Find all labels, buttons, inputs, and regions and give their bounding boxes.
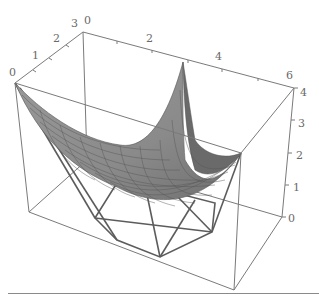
- z-tick-3: 3: [298, 117, 305, 130]
- x-axis: 0 2 4 6: [84, 14, 293, 82]
- y-tick-3: 3: [71, 17, 78, 30]
- y-tick-1: 1: [32, 49, 39, 62]
- x-tick-0: 0: [84, 14, 91, 27]
- surface-plot-3d: 0 1 2 3 0 2 4 6 4 3 2 1 0: [0, 0, 319, 304]
- paraboloid-surface: [15, 62, 241, 206]
- y-tick-2: 2: [53, 32, 60, 45]
- x-tick-2: 2: [146, 32, 153, 45]
- z-tick-0: 0: [288, 212, 295, 225]
- bottom-divider: [8, 293, 319, 294]
- x-tick-4: 4: [215, 50, 222, 63]
- z-axis: 4 3 2 1 0: [282, 86, 307, 225]
- y-tick-0: 0: [9, 66, 16, 79]
- y-axis: 0 1 2 3: [9, 17, 78, 79]
- z-tick-2: 2: [296, 149, 303, 162]
- z-tick-1: 1: [293, 181, 300, 194]
- z-tick-4: 4: [300, 86, 307, 99]
- x-tick-6: 6: [286, 69, 293, 82]
